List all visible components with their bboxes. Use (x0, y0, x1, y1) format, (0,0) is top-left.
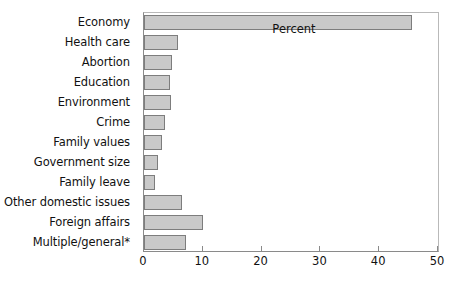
plot-area (143, 12, 439, 252)
axis-tick-mark (437, 246, 438, 251)
value-axis: 01020304050 (143, 251, 437, 291)
bar-row (144, 173, 438, 193)
bar-row (144, 53, 438, 73)
category-label: Family leave (0, 172, 136, 192)
axis-tick-label: 10 (194, 254, 209, 268)
bar-row (144, 193, 438, 213)
category-label: Environment (0, 92, 136, 112)
category-label: Foreign affairs (0, 212, 136, 232)
axis-tick-mark (261, 246, 262, 251)
axis-tick-mark (143, 246, 144, 251)
bar-row (144, 133, 438, 153)
bar-row (144, 73, 438, 93)
bar-row (144, 33, 438, 53)
bar-row (144, 93, 438, 113)
bar (144, 75, 170, 90)
axis-tick-label: 0 (139, 254, 146, 268)
axis-tick-label: 20 (253, 254, 268, 268)
bar (144, 195, 182, 210)
bar-row (144, 113, 438, 133)
bar (144, 35, 178, 50)
category-label: Government size (0, 152, 136, 172)
axis-title-percent: Percent (147, 22, 441, 36)
category-label: Economy (0, 12, 136, 32)
bar (144, 175, 155, 190)
bar-row (144, 233, 438, 253)
bar (144, 155, 158, 170)
axis-tick-mark (378, 246, 379, 251)
bar (144, 235, 186, 250)
bar (144, 135, 162, 150)
category-label: Family values (0, 132, 136, 152)
category-axis-labels: Economy Health care Abortion Education E… (0, 12, 136, 252)
axis-tick-label: 30 (312, 254, 327, 268)
bar-chart: Economy Health care Abortion Education E… (0, 0, 452, 297)
axis-tick-mark (319, 246, 320, 251)
axis-tick-label: 40 (371, 254, 386, 268)
bar (144, 55, 172, 70)
bar-row (144, 153, 438, 173)
category-label: Multiple/general* (0, 232, 136, 252)
bar (144, 115, 165, 130)
axis-tick-label: 50 (430, 254, 445, 268)
category-label: Abortion (0, 52, 136, 72)
axis-tick-mark (202, 246, 203, 251)
category-label: Crime (0, 112, 136, 132)
bar (144, 215, 203, 230)
category-label: Health care (0, 32, 136, 52)
category-label: Education (0, 72, 136, 92)
bar (144, 95, 171, 110)
bar-row (144, 213, 438, 233)
category-label: Other domestic issues (0, 192, 136, 212)
